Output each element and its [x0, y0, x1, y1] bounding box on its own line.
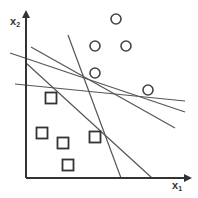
circle-point-3	[121, 41, 131, 51]
square-point-4	[90, 132, 101, 143]
circle-point-5	[143, 85, 153, 95]
separating-line-5	[15, 84, 185, 101]
x2-label-subscript: 2	[16, 21, 20, 28]
circle-point-4	[90, 68, 100, 78]
x1-axis-label: x1	[172, 180, 182, 192]
x2-axis-label: x2	[10, 16, 20, 28]
square-point-2	[37, 128, 48, 139]
square-point-1	[46, 93, 57, 104]
circle-point-2	[90, 41, 100, 51]
candidate-separating-lines	[10, 35, 185, 178]
circle-point-1	[111, 14, 121, 24]
square-point-5	[63, 160, 74, 171]
separating-line-1	[68, 35, 121, 178]
separating-line-4	[10, 53, 185, 112]
x1-label-subscript: 1	[178, 185, 182, 192]
square-point-3	[58, 138, 69, 149]
class-square-points	[37, 93, 101, 171]
separating-hyperplanes-diagram	[0, 0, 198, 198]
